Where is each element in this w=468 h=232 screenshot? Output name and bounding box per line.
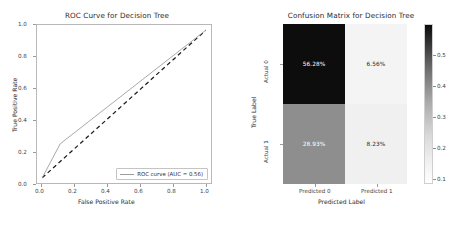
cm-cell-1-0[interactable]: 28.93% — [283, 104, 345, 184]
cm-cell-value-1-1: 8.23% — [367, 141, 386, 147]
roc-xtick-2: 0.4 — [101, 188, 110, 194]
roc-xtick-1: 0.2 — [68, 188, 77, 194]
cm-colorbar — [424, 24, 433, 184]
cm-x-axis-title: Predicted Label — [318, 198, 365, 205]
cm-row-label-1: Actual 1 — [263, 140, 269, 163]
roc-xtick-mark-2 — [107, 184, 108, 187]
cbar-tick-mark-4 — [433, 179, 436, 180]
cm-col-label-1: Predicted 1 — [361, 188, 393, 194]
cbar-label-3: 0.2 — [437, 145, 446, 151]
roc-xtick-mark-3 — [140, 184, 141, 187]
roc-panel: ROC Curve for Decision Tree True Positiv… — [0, 0, 234, 232]
cbar-tick-mark-3 — [433, 148, 436, 149]
roc-legend-label: ROC curve (AUC = 0.56) — [137, 171, 203, 177]
roc-ytick-3: 0.6 — [18, 85, 27, 91]
roc-ytick-1: 0.2 — [18, 149, 27, 155]
roc-xtick-3: 0.6 — [134, 188, 143, 194]
cm-cell-value-0-0: 56.28% — [303, 61, 326, 67]
roc-chart-title: ROC Curve for Decision Tree — [0, 11, 234, 20]
cbar-label-2: 0.3 — [437, 114, 446, 120]
roc-curve-svg — [37, 25, 211, 183]
cm-y-axis-title: True Label — [250, 97, 257, 128]
cm-row-label-0: Actual 0 — [263, 60, 269, 83]
roc-xtick-mark-1 — [74, 184, 75, 187]
cbar-tick-mark-0 — [433, 55, 436, 56]
roc-ytick-5: 1.0 — [18, 21, 27, 27]
cm-plot-area: 56.28% 6.56% 28.93% 8.23% — [283, 24, 407, 184]
cm-cell-0-1[interactable]: 6.56% — [345, 24, 407, 104]
roc-ytick-2: 0.4 — [18, 117, 27, 123]
roc-legend-line-swatch — [120, 174, 134, 175]
cm-chart-title: Confusion Matrix for Decision Tree — [234, 11, 468, 20]
roc-xtick-4: 0.8 — [167, 188, 176, 194]
cbar-tick-mark-2 — [433, 117, 436, 118]
cm-xtick-mark-1 — [377, 184, 378, 187]
cm-cell-0-0[interactable]: 56.28% — [283, 24, 345, 104]
cbar-label-1: 0.4 — [437, 83, 446, 89]
cm-cell-value-1-0: 28.93% — [303, 141, 326, 147]
cm-xtick-mark-0 — [315, 184, 316, 187]
roc-x-axis-title: False Positive Rate — [78, 198, 135, 205]
roc-y-axis-title: True Positive Rate — [11, 78, 18, 132]
figure-canvas: ROC Curve for Decision Tree True Positiv… — [0, 0, 468, 232]
roc-xtick-mark-4 — [173, 184, 174, 187]
roc-xtick-0: 0.0 — [35, 188, 44, 194]
roc-ytick-4: 0.8 — [18, 53, 27, 59]
roc-chance-line — [42, 30, 206, 178]
roc-ytick-0: 0.0 — [18, 181, 27, 187]
roc-xtick-5: 1.0 — [200, 188, 209, 194]
cm-col-label-0: Predicted 0 — [299, 188, 331, 194]
cbar-tick-mark-1 — [433, 86, 436, 87]
cm-grid: 56.28% 6.56% 28.93% 8.23% — [283, 24, 407, 184]
cbar-label-0: 0.5 — [437, 52, 446, 58]
roc-legend[interactable]: ROC curve (AUC = 0.56) — [116, 168, 208, 180]
cbar-label-4: 0.1 — [437, 176, 446, 182]
cm-cell-value-0-1: 6.56% — [367, 61, 386, 67]
cm-cell-1-1[interactable]: 8.23% — [345, 104, 407, 184]
roc-xtick-mark-0 — [41, 184, 42, 187]
roc-xtick-mark-5 — [206, 184, 207, 187]
roc-plot-area: ROC curve (AUC = 0.56) — [36, 24, 212, 184]
